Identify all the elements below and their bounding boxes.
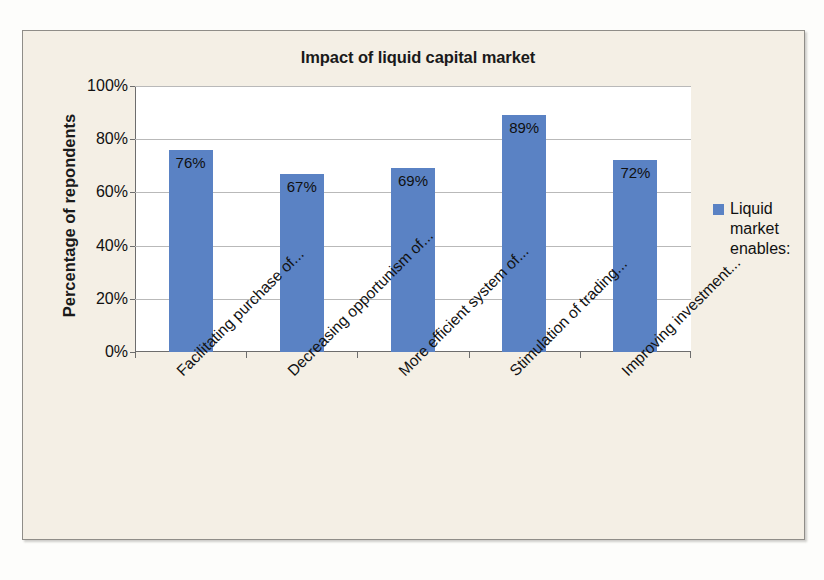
legend-label: Liquid market enables: xyxy=(730,199,791,259)
y-axis-tick-label: 20% xyxy=(96,290,128,308)
bar[interactable]: 89% xyxy=(502,115,546,352)
plot-area: 0%20%40%60%80%100%76%67%69%89%72% xyxy=(135,86,691,352)
legend-label-line: market xyxy=(730,219,791,239)
chart-legend: Liquid market enables: xyxy=(713,199,801,259)
x-axis-category-labels: Facilitating purchase of...Decreasing op… xyxy=(135,353,691,533)
y-axis-tick-label: 60% xyxy=(96,183,128,201)
bar-value-label: 89% xyxy=(502,119,546,136)
bar-value-label: 69% xyxy=(391,172,435,189)
bar-value-label: 72% xyxy=(613,164,657,181)
chart-title: Impact of liquid capital market xyxy=(133,48,703,67)
y-axis-tick-label: 40% xyxy=(96,237,128,255)
y-axis-tick-label: 80% xyxy=(96,130,128,148)
scanned-page-background: Impact of liquid capital market Percenta… xyxy=(0,0,824,580)
legend-label-line: enables: xyxy=(730,239,791,259)
legend-color-swatch xyxy=(713,204,724,215)
chart-frame: Impact of liquid capital market Percenta… xyxy=(22,30,805,540)
bar[interactable]: 76% xyxy=(169,150,213,352)
y-axis-title: Percentage of repondents xyxy=(60,91,79,341)
legend-item: Liquid market enables: xyxy=(713,199,801,259)
bar-value-label: 76% xyxy=(169,154,213,171)
y-axis-tick-label: 0% xyxy=(105,343,128,361)
y-axis-tick-label: 100% xyxy=(87,77,128,95)
bar-value-label: 67% xyxy=(280,178,324,195)
legend-label-line: Liquid xyxy=(730,199,791,219)
